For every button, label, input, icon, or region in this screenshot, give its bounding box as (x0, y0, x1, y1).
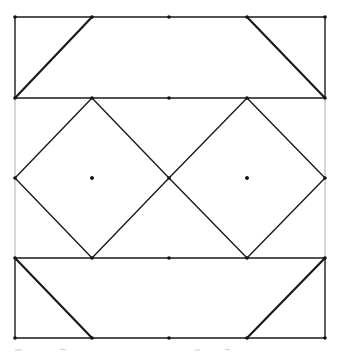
vertex-dot (90, 176, 94, 180)
vertex-dot (245, 15, 249, 19)
vertex-dot (13, 336, 17, 340)
bottom-diagonal-0 (15, 258, 92, 338)
quilt-block-diagram (0, 0, 345, 355)
vertex-dot (90, 15, 94, 19)
vertex-dot (323, 176, 327, 180)
vertex-dot (90, 256, 94, 260)
vertex-dot (167, 256, 171, 260)
vertex-dot (13, 96, 17, 100)
vertex-dot (323, 256, 327, 260)
vertex-dot (90, 96, 94, 100)
vertex-dot (323, 96, 327, 100)
vertex-dot (13, 176, 17, 180)
top-diagonal-1 (247, 17, 325, 98)
faint-bottom-marks (15, 349, 230, 350)
vertex-dot (323, 336, 327, 340)
vertex-dot (167, 15, 171, 19)
vertex-dot (167, 96, 171, 100)
vertex-dot (167, 336, 171, 340)
vertex-dot (245, 336, 249, 340)
vertex-dot (13, 15, 17, 19)
vertex-dot (13, 256, 17, 260)
vertex-dot (245, 176, 249, 180)
vertex-dot (167, 176, 171, 180)
vertex-dot (323, 15, 327, 19)
bottom-diagonal-1 (247, 258, 325, 338)
vertex-dots (13, 15, 327, 340)
vertex-dot (90, 336, 94, 340)
top-diagonal-0 (15, 17, 92, 98)
vertex-dot (245, 256, 249, 260)
vertex-dot (245, 96, 249, 100)
